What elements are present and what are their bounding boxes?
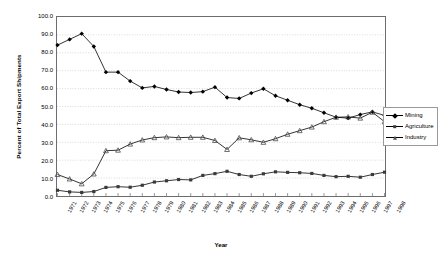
y-tick-label: 80.0 bbox=[4, 49, 56, 55]
y-tick-label: 100.0 bbox=[4, 13, 56, 19]
x-tick-label: 1985 bbox=[236, 200, 247, 214]
data-point-marker bbox=[261, 87, 265, 91]
x-tick-label: 1987 bbox=[261, 200, 272, 214]
x-tick-label: 1972 bbox=[78, 200, 89, 214]
data-point-marker bbox=[201, 89, 205, 93]
data-point-marker bbox=[55, 172, 60, 176]
y-tick-label: 70.0 bbox=[4, 67, 56, 73]
x-tick-label: 1975 bbox=[114, 200, 125, 214]
data-point-marker bbox=[153, 180, 156, 183]
data-point-marker bbox=[383, 171, 386, 174]
x-tick-label: 1980 bbox=[175, 200, 186, 214]
x-tick-label: 1977 bbox=[139, 200, 150, 214]
x-tick-label: 1984 bbox=[224, 200, 235, 214]
data-point-marker bbox=[68, 190, 71, 193]
x-tick-label: 1990 bbox=[297, 200, 308, 214]
data-point-marker bbox=[201, 174, 204, 177]
x-tick-label: 1988 bbox=[273, 200, 284, 214]
data-series-layer bbox=[57, 17, 385, 196]
data-point-marker bbox=[165, 179, 168, 182]
x-axis-tick-labels: 1971197219731974197519761977197819791980… bbox=[56, 197, 386, 242]
data-point-marker bbox=[189, 90, 193, 94]
x-tick-label: 1993 bbox=[334, 200, 345, 214]
diamond-marker-icon bbox=[386, 111, 403, 120]
x-tick-label: 1981 bbox=[188, 200, 199, 214]
data-point-marker bbox=[225, 170, 228, 173]
x-tick-label: 1973 bbox=[90, 200, 101, 214]
data-point-marker bbox=[322, 111, 326, 115]
x-tick-label: 1983 bbox=[212, 200, 223, 214]
data-point-marker bbox=[67, 37, 71, 41]
x-tick-label: 1976 bbox=[127, 200, 138, 214]
x-tick-label: 1979 bbox=[163, 200, 174, 214]
x-tick-label: 1986 bbox=[248, 200, 259, 214]
series-line bbox=[57, 34, 384, 118]
data-point-marker bbox=[141, 184, 144, 187]
data-point-marker bbox=[80, 191, 83, 194]
legend-item-label: Agriculture bbox=[403, 123, 434, 130]
x-tick-label: 1998 bbox=[395, 200, 406, 214]
y-axis-tick-labels: 0.010.020.030.040.050.060.070.080.090.01… bbox=[0, 0, 56, 262]
x-tick-label: 1992 bbox=[322, 200, 333, 214]
x-axis-title: Year bbox=[56, 241, 386, 248]
x-tick-label: 1995 bbox=[358, 200, 369, 214]
plot-area bbox=[56, 16, 386, 197]
data-point-marker bbox=[140, 86, 144, 90]
legend-item-label: Mining bbox=[403, 112, 423, 119]
x-tick-label: 1974 bbox=[102, 200, 113, 214]
data-point-marker bbox=[347, 175, 350, 178]
chart-container: Percent of Total Export Shipments 0.010.… bbox=[0, 0, 448, 262]
data-point-marker bbox=[177, 178, 180, 181]
legend-item-mining[interactable]: Mining bbox=[386, 110, 434, 121]
legend-item-agriculture[interactable]: Agriculture bbox=[386, 121, 434, 132]
y-tick-label: 20.0 bbox=[4, 158, 56, 164]
data-point-marker bbox=[176, 90, 180, 94]
data-point-marker bbox=[55, 43, 59, 47]
series-line bbox=[57, 112, 384, 184]
data-point-marker bbox=[298, 103, 302, 107]
y-tick-label: 40.0 bbox=[4, 122, 56, 128]
data-point-marker bbox=[56, 189, 59, 192]
series-industry bbox=[55, 110, 387, 186]
x-tick-label: 1971 bbox=[66, 200, 77, 214]
x-tick-label: 1996 bbox=[370, 200, 381, 214]
data-point-marker bbox=[129, 186, 132, 189]
data-point-marker bbox=[322, 174, 325, 177]
data-point-marker bbox=[164, 87, 168, 91]
data-point-marker bbox=[273, 94, 277, 98]
data-point-marker bbox=[334, 175, 337, 178]
x-tick-label: 1991 bbox=[309, 200, 320, 214]
data-point-marker bbox=[104, 70, 108, 74]
data-point-marker bbox=[274, 170, 277, 173]
x-tick-label: 1989 bbox=[285, 200, 296, 214]
data-point-marker bbox=[152, 84, 156, 88]
data-point-marker bbox=[310, 106, 314, 110]
series-mining bbox=[55, 31, 386, 120]
data-point-marker bbox=[262, 172, 265, 175]
chart-legend: MiningAgricultureIndustry bbox=[383, 107, 438, 146]
data-point-marker bbox=[237, 96, 241, 100]
legend-item-label: Industry bbox=[403, 134, 426, 141]
data-point-marker bbox=[298, 171, 301, 174]
data-point-marker bbox=[371, 173, 374, 176]
square-marker-icon bbox=[386, 122, 403, 131]
series-line bbox=[57, 171, 384, 192]
x-tick-label: 1997 bbox=[383, 200, 394, 214]
x-tick-label: 1994 bbox=[346, 200, 357, 214]
y-tick-label: 60.0 bbox=[4, 85, 56, 91]
data-point-marker bbox=[310, 172, 313, 175]
data-point-marker bbox=[359, 176, 362, 179]
data-point-marker bbox=[249, 91, 253, 95]
x-tick-label: 1982 bbox=[200, 200, 211, 214]
y-tick-label: 0.0 bbox=[4, 194, 56, 200]
data-point-marker bbox=[189, 178, 192, 181]
legend-item-industry[interactable]: Industry bbox=[386, 132, 434, 143]
data-point-marker bbox=[116, 185, 119, 188]
series-agriculture bbox=[56, 170, 386, 194]
data-point-marker bbox=[213, 172, 216, 175]
data-point-marker bbox=[286, 171, 289, 174]
data-point-marker bbox=[285, 98, 289, 102]
data-point-marker bbox=[104, 186, 107, 189]
data-point-marker bbox=[250, 175, 253, 178]
y-tick-label: 50.0 bbox=[4, 104, 56, 110]
